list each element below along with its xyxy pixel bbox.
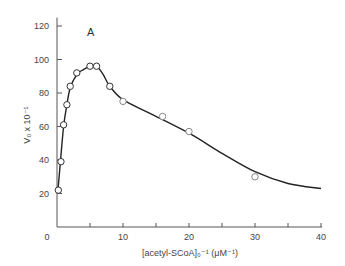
x-tick-label: 0 bbox=[44, 232, 49, 242]
x-tick-label: 20 bbox=[184, 232, 194, 242]
data-point bbox=[159, 113, 165, 119]
y-tick-label: 60 bbox=[39, 122, 49, 132]
data-points bbox=[55, 63, 258, 193]
x-tick-label: 40 bbox=[316, 232, 326, 242]
y-tick-label: 100 bbox=[34, 55, 49, 65]
y-tick-label: 40 bbox=[39, 155, 49, 165]
data-point bbox=[67, 83, 73, 89]
x-axis-label: [acetyl-SCoA]₀⁻¹ (μM⁻¹) bbox=[142, 248, 238, 258]
data-point bbox=[93, 63, 99, 69]
axes: 20406080100120010203040 bbox=[34, 18, 326, 242]
data-point bbox=[87, 63, 93, 69]
y-tick-label: 80 bbox=[39, 88, 49, 98]
panel-label: A bbox=[87, 26, 95, 38]
data-point bbox=[186, 128, 192, 134]
data-point bbox=[60, 122, 66, 128]
x-tick-label: 10 bbox=[118, 232, 128, 242]
y-axis-label: V₀ x 10⁻¹ bbox=[22, 106, 32, 143]
data-point bbox=[64, 102, 70, 108]
data-point bbox=[55, 187, 61, 193]
y-tick-label: 20 bbox=[39, 189, 49, 199]
data-point bbox=[107, 83, 113, 89]
data-point bbox=[58, 158, 64, 164]
data-point bbox=[252, 174, 258, 180]
kinetics-chart: 20406080100120010203040 A [acetyl-SCoA]₀… bbox=[0, 0, 345, 266]
x-tick-label: 30 bbox=[250, 232, 260, 242]
data-point bbox=[74, 70, 80, 76]
data-point bbox=[120, 98, 126, 104]
y-tick-label: 120 bbox=[34, 21, 49, 31]
